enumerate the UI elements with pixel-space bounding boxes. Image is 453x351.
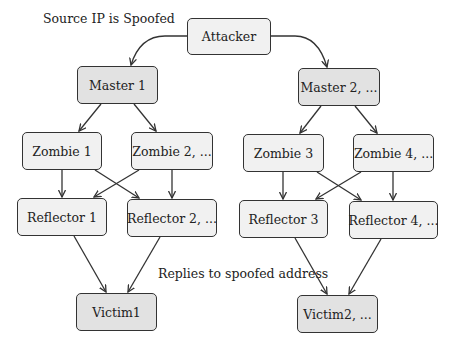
replies-label: Replies to spoofed address	[158, 266, 328, 281]
node-zombie-4: Zombie 4, ...	[353, 134, 434, 172]
node-attacker: Attacker	[187, 18, 271, 55]
edge-master1-zombie2	[134, 104, 156, 131]
node-victim-1: Victim1	[76, 293, 157, 331]
node-zombie-3: Zombie 3	[243, 134, 324, 172]
edge-master2-zombie3	[300, 106, 321, 133]
source-spoofed-label: Source IP is Spoofed	[43, 11, 175, 26]
node-victim-2: Victim2, ...	[297, 295, 378, 333]
node-master-2: Master 2, ...	[298, 68, 380, 106]
node-zombie-1: Zombie 1	[22, 132, 102, 170]
node-reflector-3: Reflector 3	[239, 200, 328, 238]
node-zombie-2: Zombie 2, ...	[131, 132, 213, 170]
edge-master2-zombie4	[355, 106, 377, 133]
node-master-1: Master 1	[77, 66, 158, 104]
edge-attacker-master1	[131, 36, 187, 65]
edge-reflector2-victim1	[128, 237, 160, 292]
edge-reflector1-victim1	[74, 236, 106, 292]
edge-reflector4-victim2	[349, 239, 381, 294]
edge-attacker-master2	[271, 36, 327, 67]
node-reflector-1: Reflector 1	[17, 198, 107, 236]
edge-master1-zombie1	[79, 104, 101, 131]
node-reflector-2: Reflector 2, ...	[127, 199, 217, 237]
node-reflector-4: Reflector 4, ...	[349, 201, 438, 239]
